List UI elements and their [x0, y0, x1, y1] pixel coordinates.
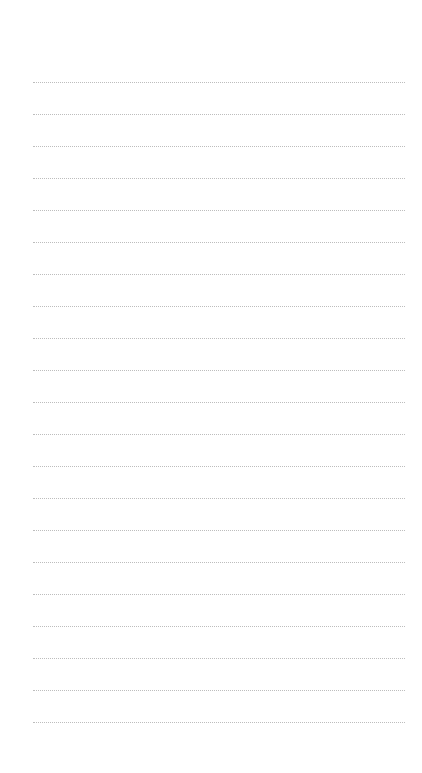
ruled-line [33, 562, 405, 594]
ruled-line [33, 658, 405, 690]
ruled-line [33, 594, 405, 626]
ruled-line [33, 466, 405, 498]
ruled-line [33, 242, 405, 274]
ruled-line [33, 306, 405, 338]
ruled-line [33, 370, 405, 402]
ruled-line [33, 530, 405, 562]
lined-page [0, 0, 422, 773]
ruled-lines [33, 82, 405, 754]
ruled-line [33, 114, 405, 146]
ruled-line [33, 626, 405, 658]
ruled-line [33, 722, 405, 754]
ruled-line [33, 178, 405, 210]
ruled-line [33, 274, 405, 306]
ruled-line [33, 338, 405, 370]
ruled-line [33, 498, 405, 530]
ruled-line [33, 402, 405, 434]
ruled-line [33, 210, 405, 242]
ruled-line [33, 690, 405, 722]
ruled-line [33, 82, 405, 114]
ruled-line [33, 434, 405, 466]
ruled-line [33, 146, 405, 178]
